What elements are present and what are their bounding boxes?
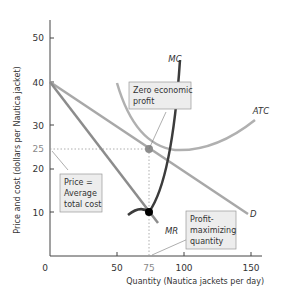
y-tick-20: 20 <box>33 164 45 174</box>
chart: 50 40 30 25 20 10 0 50 75 100 150 Price … <box>0 0 284 295</box>
x-tick-50: 50 <box>111 263 123 273</box>
y-tick-10: 10 <box>33 208 45 218</box>
y-ticks: 50 40 30 25 20 10 0 <box>33 33 54 273</box>
profit-max-text-3: quantity <box>190 237 224 246</box>
mr-label: MR <box>165 226 178 236</box>
x-tick-150: 150 <box>242 263 259 273</box>
y-axis-label: Price and cost (dollars per Nautica jack… <box>13 66 22 233</box>
profit-max-point <box>145 208 153 216</box>
price-atc-text-2: Average <box>64 189 97 198</box>
price-atc-annotation: Price = Average total cost <box>52 151 102 212</box>
profit-max-text-2: maximizing <box>190 226 236 235</box>
y-tick-50: 50 <box>33 33 45 43</box>
y-tick-30: 30 <box>33 121 45 131</box>
zero-profit-text-2: profit <box>133 97 154 106</box>
y-tick-25: 25 <box>33 144 44 154</box>
d-label: D <box>250 209 257 219</box>
zero-profit-text-1: Zero economic <box>133 86 193 95</box>
price-atc-text-3: total cost <box>64 200 101 209</box>
zero-profit-annotation: Zero economic profit <box>129 82 193 149</box>
origin-tick: 0 <box>42 263 48 273</box>
x-tick-75: 75 <box>143 263 154 273</box>
price-atc-text-1: Price = <box>64 178 93 187</box>
x-ticks: 50 75 100 150 <box>111 252 260 273</box>
profit-max-text-1: Profit- <box>190 215 214 224</box>
x-axis-label: Quantity (Nautica jackets per day) <box>126 277 264 286</box>
atc-label: ATC <box>252 106 269 116</box>
mc-label: MC <box>168 54 181 64</box>
x-tick-100: 100 <box>175 263 192 273</box>
y-tick-40: 40 <box>33 78 45 88</box>
